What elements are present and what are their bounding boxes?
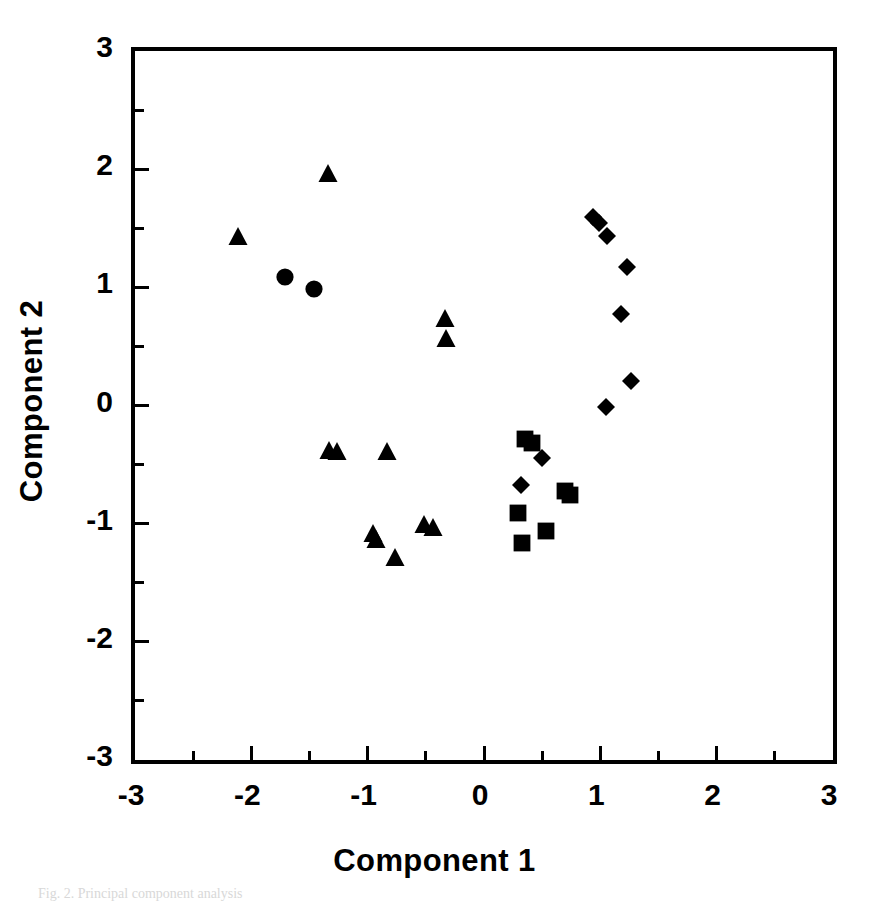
x-axis-tick (250, 746, 253, 760)
y-axis-tick (135, 699, 144, 702)
y-axis-tick-label: -1 (86, 503, 113, 537)
y-axis-tick (135, 227, 144, 230)
y-axis-title: Component 2 (14, 300, 50, 502)
x-axis-tick (541, 751, 544, 760)
x-axis-tick (599, 746, 602, 760)
x-axis-tick-label: -3 (118, 778, 145, 812)
x-axis-title: Component 1 (0, 843, 869, 879)
y-axis-tick (135, 522, 149, 525)
y-axis-tick (135, 404, 149, 407)
x-axis-tick-label: -2 (234, 778, 261, 812)
x-axis-tick (366, 746, 369, 760)
x-axis-tick-label: 2 (704, 778, 721, 812)
y-axis-tick (135, 640, 149, 643)
x-axis-tick (424, 751, 427, 760)
y-axis-tick (135, 286, 149, 289)
x-axis-tick-label: 0 (472, 778, 489, 812)
y-axis-tick-label: 3 (96, 30, 113, 64)
plot-area (135, 51, 833, 760)
x-axis-tick (657, 751, 660, 760)
plot-frame (131, 47, 837, 764)
y-axis-tick (135, 345, 144, 348)
x-axis-tick (483, 746, 486, 760)
figure-caption: Fig. 2. Principal component analysis (38, 886, 243, 902)
y-axis-tick-label: 1 (96, 266, 113, 300)
figure-scatter-plot: Component 2 Component 1 -3-2-101233210-1… (0, 0, 869, 905)
y-axis-tick-label: 2 (96, 148, 113, 182)
x-axis-tick (773, 751, 776, 760)
x-axis-tick-label: -1 (350, 778, 377, 812)
x-axis-tick (308, 751, 311, 760)
y-axis-tick-label: -2 (86, 621, 113, 655)
x-axis-tick-label: 3 (821, 778, 838, 812)
y-axis-tick-label: -3 (86, 739, 113, 773)
y-axis-tick (135, 581, 144, 584)
y-axis-tick-label: 0 (96, 385, 113, 419)
x-axis-tick (192, 751, 195, 760)
x-axis-tick-label: 1 (588, 778, 605, 812)
x-axis-tick (715, 746, 718, 760)
y-axis-tick (135, 109, 144, 112)
y-axis-tick (135, 168, 149, 171)
y-axis-tick (135, 463, 144, 466)
